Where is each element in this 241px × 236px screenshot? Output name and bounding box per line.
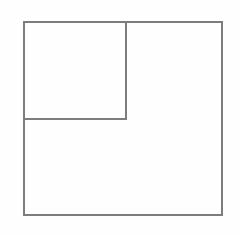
geometry-diagram — [0, 0, 241, 236]
figure-canvas — [0, 0, 241, 236]
diagram-background — [0, 0, 241, 236]
